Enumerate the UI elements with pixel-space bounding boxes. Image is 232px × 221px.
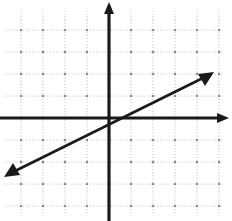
coordinate-plane-svg (0, 0, 232, 221)
graph-figure (0, 0, 232, 221)
